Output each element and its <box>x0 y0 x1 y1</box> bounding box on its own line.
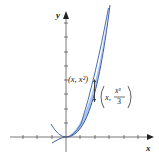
curve-x-squared <box>51 8 109 137</box>
y-axis-arrow-icon <box>63 11 69 19</box>
paren-right <box>128 86 131 108</box>
paren-left <box>101 86 104 108</box>
lower-point-numerator: x³ <box>115 87 121 95</box>
lower-point-label-prefix: x, <box>105 93 111 102</box>
upper-point-label: (x, x²) <box>68 75 88 84</box>
y-axis-label: y <box>56 11 60 20</box>
shaded-region <box>66 8 109 137</box>
x-axis-label: x <box>146 144 151 153</box>
x-axis-arrow-icon <box>147 134 154 140</box>
segment-bottom-arrow-icon <box>93 99 96 102</box>
lower-point-denominator: 3 <box>117 98 121 106</box>
